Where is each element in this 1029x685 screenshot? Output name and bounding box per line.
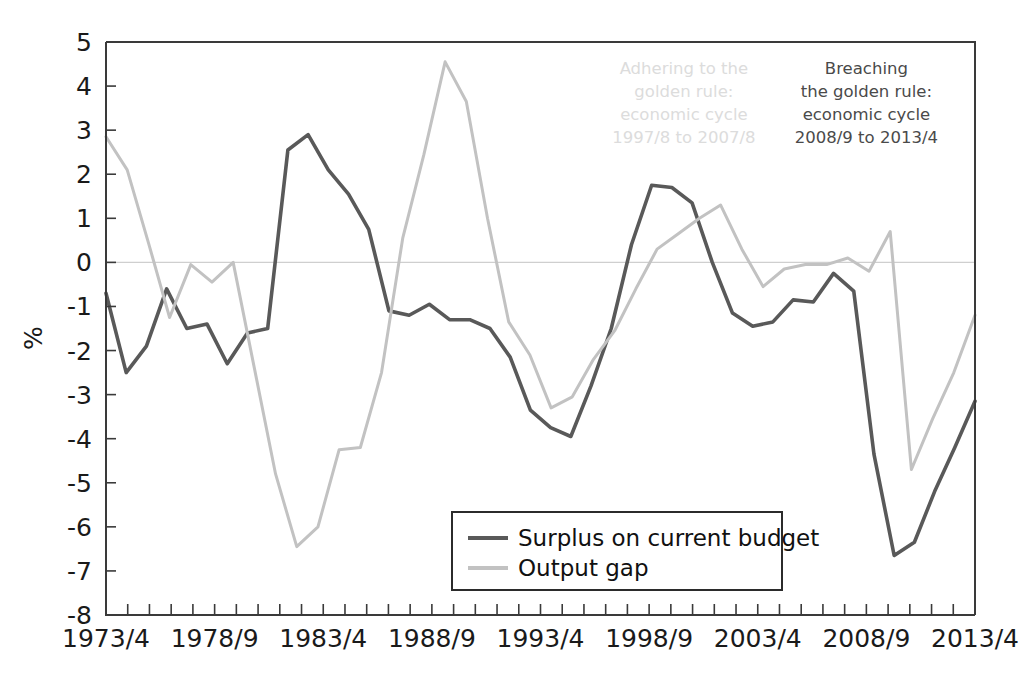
- adhering-annotation-line: economic cycle: [620, 105, 748, 124]
- x-tick-label: 1988/9: [388, 624, 476, 653]
- y-tick-label: 3: [76, 116, 92, 145]
- x-tick-label: 1993/4: [497, 624, 585, 653]
- y-axis-label-text: %: [19, 326, 48, 350]
- x-tick-label: 2013/4: [931, 624, 1019, 653]
- legend-label-surplus: Surplus on current budget: [518, 525, 819, 551]
- chart-container: 543210-1-2-3-4-5-6-7-8 1973/41978/91983/…: [0, 0, 1029, 685]
- y-tick-label: 1: [76, 204, 92, 233]
- x-tick-label: 1978/9: [171, 624, 259, 653]
- y-tick-label: -3: [67, 381, 92, 410]
- breaching-annotation-line: 2008/9 to 2013/4: [795, 128, 938, 147]
- y-tick-label: 5: [76, 28, 92, 57]
- x-tick-label: 2008/9: [822, 624, 910, 653]
- breaching-annotation-line: the golden rule:: [801, 82, 932, 101]
- y-tick-label: -2: [67, 337, 92, 366]
- y-tick-label: -5: [67, 469, 92, 498]
- y-tick-label: 0: [76, 248, 92, 277]
- y-axis-label: %: [19, 326, 48, 350]
- y-tick-label: -7: [67, 557, 92, 586]
- y-tick-label: 2: [76, 160, 92, 189]
- x-tick-label: 2003/4: [714, 624, 802, 653]
- y-tick-label: -6: [67, 513, 92, 542]
- y-tick-label: -1: [67, 292, 92, 321]
- x-tick-label: 1983/4: [279, 624, 367, 653]
- line-chart: 543210-1-2-3-4-5-6-7-8 1973/41978/91983/…: [0, 0, 1029, 685]
- legend-label-output-gap: Output gap: [518, 555, 649, 581]
- breaching-annotation-line: Breaching: [825, 59, 908, 78]
- adhering-annotation-line: Adhering to the: [620, 59, 749, 78]
- x-tick-label: 1998/9: [605, 624, 693, 653]
- y-tick-label: 4: [76, 72, 92, 101]
- y-tick-label: -4: [67, 425, 92, 454]
- chart-legend: Surplus on current budget Output gap: [452, 512, 819, 590]
- adhering-annotation-line: golden rule:: [634, 82, 733, 101]
- x-tick-label: 1973/4: [62, 624, 150, 653]
- breaching-annotation-line: economic cycle: [803, 105, 931, 124]
- adhering-annotation-line: 1997/8 to 2007/8: [612, 128, 755, 147]
